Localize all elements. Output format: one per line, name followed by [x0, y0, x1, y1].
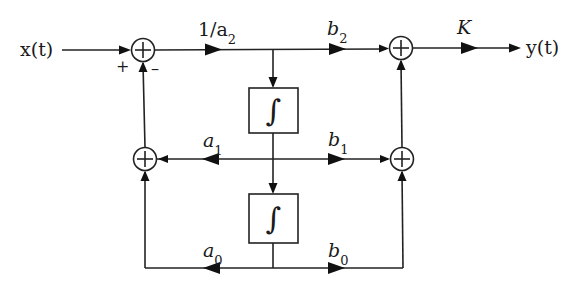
arrowhead-into-summer-mid-left — [158, 155, 168, 163]
gain-label-K: K — [456, 16, 473, 38]
feedback-wire-to-top-summer — [143, 63, 145, 148]
integral-symbol-2: ∫ — [266, 201, 282, 236]
arrowhead-into-summer-mid-left-bottom — [141, 171, 150, 182]
arrowhead-into-summer-top-right — [379, 45, 389, 53]
gain-label-b2: b2 — [327, 17, 347, 46]
gain-arrow-K — [461, 42, 478, 54]
gain-label-a1: a1 — [203, 129, 223, 158]
gain-label-b1: b1 — [328, 128, 348, 157]
gain-label-1-over-a2: 1/a2 — [198, 18, 236, 47]
arrowhead-into-summer-top-right-bottom — [397, 60, 406, 71]
arrowhead-into-summer-mid-right-bottom — [398, 171, 407, 182]
arrowhead-into-integrator-1 — [269, 77, 278, 88]
arrowhead-into-integrator-2 — [269, 183, 278, 194]
bottom-right-riser — [402, 172, 403, 268]
integral-symbol-1: ∫ — [266, 93, 282, 128]
integrator-1: ∫ — [249, 88, 298, 133]
block-diagram: x(t) + – 1/a2 b2 K y(t) ∫ a — [0, 0, 582, 292]
minus-sign-label: – — [151, 59, 159, 78]
summer-mid-left — [134, 148, 157, 171]
summer-top-right — [390, 37, 413, 60]
gain-arrow-1-over-a2 — [205, 44, 222, 56]
gain-label-a0: a0 — [203, 239, 223, 268]
integrator-2: ∫ — [249, 194, 298, 243]
plus-sign-label: + — [116, 57, 129, 76]
arrowhead-into-summer-top-left — [139, 62, 148, 73]
arrowhead-into-summer-mid-right — [380, 155, 390, 163]
forward-wire — [155, 49, 387, 50]
output-signal-label: y(t) — [525, 36, 559, 58]
input-arrowhead — [119, 46, 131, 55]
output-arrowhead — [509, 44, 521, 53]
feedforward-wire-to-top-summer — [401, 61, 402, 148]
summer-mid-right — [391, 148, 414, 171]
input-signal-label: x(t) — [20, 38, 53, 60]
